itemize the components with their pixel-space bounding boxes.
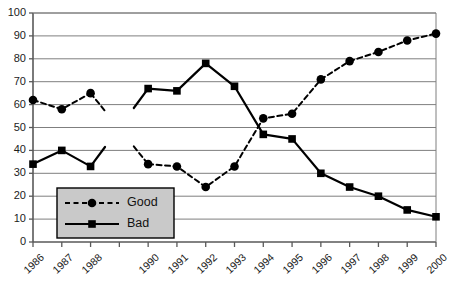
data-point [201,183,210,192]
data-point [144,85,152,93]
data-point [230,162,239,171]
data-point [259,131,267,139]
data-point [374,48,383,57]
legend-swatch-marker [88,199,97,208]
data-point [403,206,411,214]
data-point [58,147,66,155]
data-point [288,109,297,118]
data-point [86,89,95,98]
y-axis-tick-label: 20 [0,190,26,201]
data-point [317,170,325,178]
data-point [173,87,181,95]
data-point [231,82,239,90]
data-point [173,162,182,171]
data-point [29,160,37,168]
data-point [202,60,210,68]
y-axis-tick-label: 50 [0,122,26,133]
data-point [288,135,296,143]
data-point [346,183,354,191]
data-point [57,105,66,114]
y-axis-tick-label: 80 [0,53,26,64]
y-axis-tick-label: 40 [0,144,26,155]
legend-swatch-marker [88,220,96,228]
legend-label-good: Good [127,195,158,209]
data-point [144,160,153,169]
y-axis-tick-label: 100 [0,7,26,18]
data-point [403,36,412,45]
data-point [259,114,268,123]
y-axis-tick-label: 30 [0,167,26,178]
y-axis-tick-label: 70 [0,76,26,87]
y-axis-tick-label: 0 [0,236,26,247]
data-point [345,57,354,66]
y-axis-tick-label: 90 [0,30,26,41]
data-point [87,163,95,171]
y-axis-tick-label: 10 [0,213,26,224]
legend-label-bad: Bad [127,216,149,230]
data-point [29,96,38,105]
data-point [432,213,440,221]
data-point [432,29,441,38]
y-axis-tick-label: 60 [0,99,26,110]
data-point [375,192,383,200]
data-point [317,75,326,84]
